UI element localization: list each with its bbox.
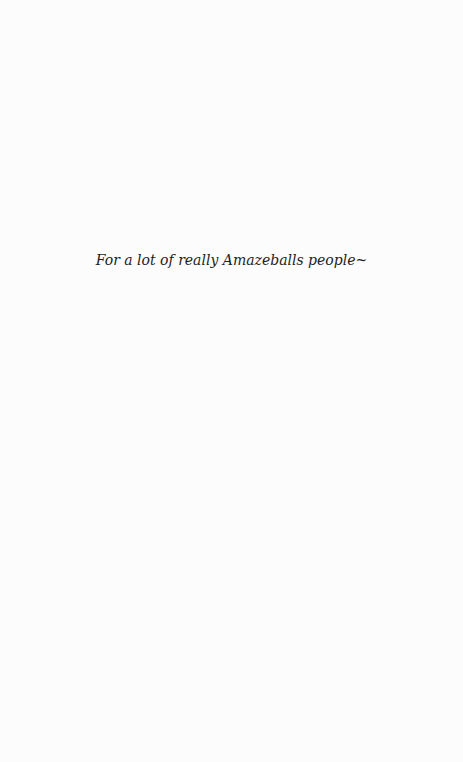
dedication-text: For a lot of really Amazeballs people~ bbox=[0, 252, 463, 268]
book-page: For a lot of really Amazeballs people~ bbox=[0, 0, 463, 762]
